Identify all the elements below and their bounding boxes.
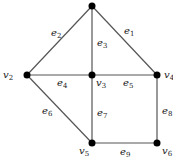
edge-label-e8: e8 [162, 106, 172, 118]
graph-canvas [0, 0, 173, 162]
vertex-v4 [154, 72, 161, 79]
vertex-label-v6: v6 [162, 146, 172, 158]
vertex-v1 [89, 3, 96, 10]
vertex-v5 [89, 140, 96, 147]
edge-label-e3: e3 [97, 38, 107, 50]
vertex-label-v4: v4 [164, 70, 173, 82]
edge-label-e2: e2 [51, 28, 61, 40]
edge-label-e6: e6 [42, 106, 52, 118]
graph-diagram: v2 v3 v4 v5 v6 e1 e2 e3 e4 e5 e6 e7 e8 e… [0, 0, 173, 162]
vertex-label-v2: v2 [3, 70, 13, 82]
edge-label-e9: e9 [120, 147, 130, 159]
vertex-v2 [24, 72, 31, 79]
edge-e2 [27, 6, 92, 75]
vertex-label-v5: v5 [79, 146, 89, 158]
vertex-v6 [154, 140, 161, 147]
edge-label-e5: e5 [123, 78, 133, 90]
vertex-v3 [89, 72, 96, 79]
vertex-label-v3: v3 [96, 78, 106, 90]
edge-label-e1: e1 [124, 26, 134, 38]
edge-label-e7: e7 [97, 108, 107, 120]
edge-label-e4: e4 [57, 78, 67, 90]
